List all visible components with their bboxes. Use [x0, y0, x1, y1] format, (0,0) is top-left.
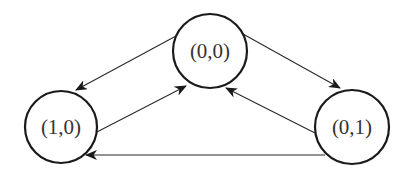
- node-0-0: (0,0): [173, 14, 247, 88]
- edge-10-to-00: [95, 86, 186, 133]
- node-label: (0,0): [190, 39, 230, 63]
- state-diagram: (0,0) (1,0) (0,1): [0, 0, 412, 174]
- edge-00-to-01: [243, 34, 340, 88]
- node-label: (1,0): [41, 115, 81, 139]
- node-1-0: (1,0): [25, 91, 97, 163]
- edge-00-to-10: [76, 36, 176, 90]
- edge-01-to-00: [226, 88, 315, 133]
- node-label: (0,1): [332, 115, 372, 139]
- node-0-1: (0,1): [315, 90, 389, 164]
